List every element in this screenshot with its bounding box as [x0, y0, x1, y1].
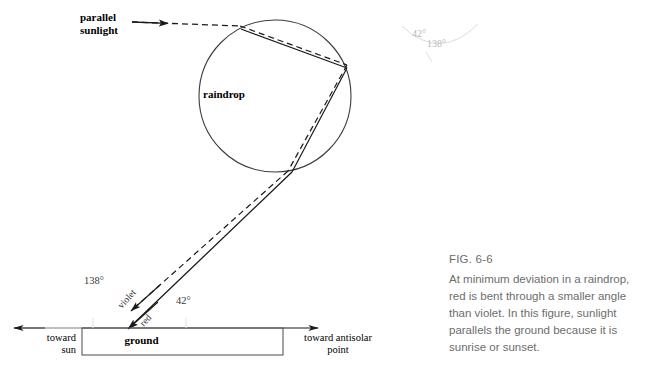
internal-ray-red-upper: [241, 29, 347, 68]
angle-label-138-faint: 138°: [427, 38, 446, 50]
caption-figure-number: FIG. 6-6: [449, 253, 639, 265]
toward-antisolar-line1: toward antisolar: [286, 332, 390, 344]
figure-root: parallel sunlight raindrop ground toward…: [0, 0, 656, 372]
incoming-sunlight-arrowhead: [132, 22, 168, 23]
angle-label-42-ground: 42°: [176, 295, 191, 307]
angle-label-42-faint: 42°: [412, 28, 426, 40]
exit-ray-red: [130, 172, 292, 327]
figure-caption: FIG. 6-6 At minimum deviation in a raind…: [449, 253, 639, 356]
internal-ray-violet-upper: [240, 26, 347, 65]
parallel-sunlight-line2: sunlight: [80, 24, 118, 37]
raindrop-label: raindrop: [203, 88, 245, 101]
angle-label-138-ground: 138°: [84, 275, 104, 287]
parallel-sunlight-line1: parallel: [80, 11, 118, 24]
internal-ray-violet-lower: [288, 65, 347, 171]
toward-antisolar-point-label: toward antisolar point: [286, 332, 390, 356]
caption-body: At minimum deviation in a raindrop, red …: [449, 271, 639, 356]
toward-antisolar-line2: point: [286, 344, 390, 356]
toward-sun-label: toward sun: [2, 332, 76, 356]
internal-ray-red-lower: [292, 68, 347, 172]
parallel-sunlight-label: parallel sunlight: [80, 11, 118, 36]
toward-sun-line1: toward: [2, 332, 76, 344]
toward-sun-line2: sun: [2, 344, 76, 356]
